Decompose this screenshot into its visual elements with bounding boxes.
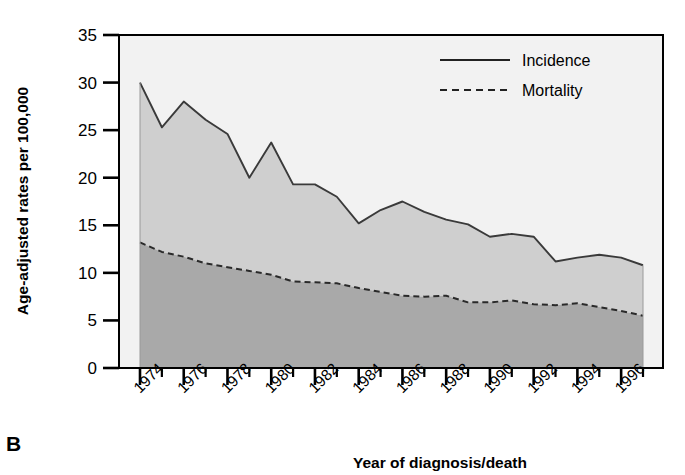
y-tick-label: 25 (78, 121, 97, 140)
legend-label-mortality: Mortality (522, 82, 582, 99)
y-tick-label: 35 (78, 26, 97, 45)
y-tick-label: 20 (78, 169, 97, 188)
legend-label-incidence: Incidence (522, 52, 591, 69)
panel-letter: B (6, 432, 21, 456)
y-tick-label: 15 (78, 216, 97, 235)
figure-panel-b: 05101520253035 1974197619781980198219841… (0, 0, 685, 475)
y-axis-title: Age-adjusted rates per 100,000 (14, 87, 31, 315)
x-axis-title: Year of diagnosis/death (353, 454, 527, 471)
y-tick-label: 10 (78, 264, 97, 283)
y-tick-label: 0 (88, 359, 97, 378)
y-axis: 05101520253035 (78, 26, 119, 378)
y-tick-label: 30 (78, 74, 97, 93)
incidence-mortality-area-chart: 05101520253035 1974197619781980198219841… (0, 0, 685, 475)
y-tick-label: 5 (88, 311, 97, 330)
